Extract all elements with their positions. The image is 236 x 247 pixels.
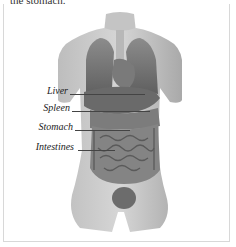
label-stomach: Stomach [13,121,73,132]
label-spleen: Spleen [10,102,70,113]
leader-line-liver [70,94,145,95]
leader-line-spleen [72,111,150,112]
leader-line-intestines [78,150,115,151]
label-liver: Liver [8,85,68,96]
leader-line-stomach [75,130,130,131]
label-intestines: Intestines [14,141,74,152]
